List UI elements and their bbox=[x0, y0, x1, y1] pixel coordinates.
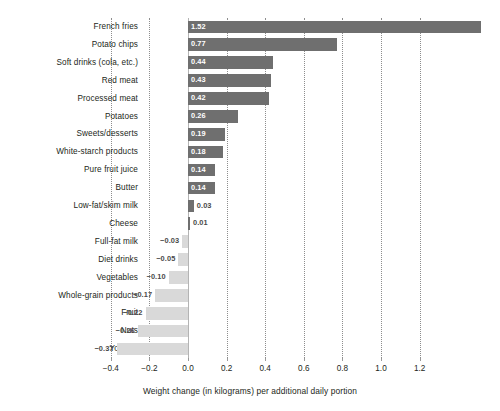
chart-row: Processed meat0.42 bbox=[0, 90, 500, 108]
bar-value-label: 0.01 bbox=[193, 217, 208, 230]
bar bbox=[188, 38, 337, 51]
bar-value-label: 0.77 bbox=[191, 38, 206, 51]
category-label: Whole-grain products bbox=[0, 287, 138, 305]
bar bbox=[188, 21, 481, 34]
category-label: French fries bbox=[0, 18, 138, 36]
x-tick-label: 1.0 bbox=[361, 364, 401, 373]
x-tick-label: −0.4 bbox=[91, 364, 131, 373]
x-tick-mark bbox=[265, 358, 266, 361]
chart-row: Nuts−0.26 bbox=[0, 322, 500, 340]
bar bbox=[146, 307, 188, 320]
x-tick-mark bbox=[188, 358, 189, 361]
chart-row: Low-fat/skim milk0.03 bbox=[0, 197, 500, 215]
category-label: Fruit bbox=[0, 304, 138, 322]
category-label: Cheese bbox=[0, 215, 138, 233]
chart-row: Whole-grain products−0.17 bbox=[0, 287, 500, 305]
category-label: Diet drinks bbox=[0, 251, 138, 269]
category-label: Low-fat/skim milk bbox=[0, 197, 138, 215]
chart-row: Red meat0.43 bbox=[0, 72, 500, 90]
chart-row: Pure fruit juice0.14 bbox=[0, 161, 500, 179]
bar-value-label: −0.10 bbox=[143, 271, 166, 284]
x-axis-title: Weight change (in kilograms) per additio… bbox=[0, 386, 500, 396]
category-label: Red meat bbox=[0, 72, 138, 90]
x-axis: −0.4−0.20.00.20.40.60.81.01.2 bbox=[0, 358, 500, 359]
chart-row: Vegetables−0.10 bbox=[0, 269, 500, 287]
bar-value-label: 0.42 bbox=[191, 92, 206, 105]
bar bbox=[169, 271, 188, 284]
chart-row: Sweets/desserts0.19 bbox=[0, 125, 500, 143]
category-label: Sweets/desserts bbox=[0, 125, 138, 143]
x-tick-label: 0.4 bbox=[245, 364, 285, 373]
category-label: Potatoes bbox=[0, 108, 138, 126]
x-tick-mark bbox=[227, 358, 228, 361]
chart-row: Diet drinks−0.05 bbox=[0, 251, 500, 269]
bar-value-label: 0.14 bbox=[191, 182, 206, 195]
chart-row: Yoghurt−0.37 bbox=[0, 340, 500, 358]
x-tick-mark bbox=[149, 358, 150, 361]
bar-value-label: 0.14 bbox=[191, 164, 206, 177]
chart-row: Potato chips0.77 bbox=[0, 36, 500, 54]
chart-row: Potatoes0.26 bbox=[0, 108, 500, 126]
bar bbox=[188, 200, 194, 213]
chart-row: French fries1.52 bbox=[0, 18, 500, 36]
bar-value-label: 0.26 bbox=[191, 110, 206, 123]
category-label: Soft drinks (cola, etc.) bbox=[0, 54, 138, 72]
bar-value-label: −0.22 bbox=[120, 307, 143, 320]
bar-value-label: −0.26 bbox=[112, 325, 135, 338]
category-label: Vegetables bbox=[0, 269, 138, 287]
x-tick-label: 0.6 bbox=[284, 364, 324, 373]
category-label: Processed meat bbox=[0, 90, 138, 108]
x-tick-mark bbox=[304, 358, 305, 361]
category-label: White-starch products bbox=[0, 143, 138, 161]
bar-value-label: 0.03 bbox=[197, 200, 212, 213]
bar bbox=[178, 253, 188, 266]
x-tick-label: 0.0 bbox=[168, 364, 208, 373]
bar bbox=[182, 235, 188, 248]
bar-value-label: −0.37 bbox=[91, 343, 114, 356]
category-label: Butter bbox=[0, 179, 138, 197]
x-tick-label: 1.2 bbox=[400, 364, 440, 373]
chart-row: White-starch products0.18 bbox=[0, 143, 500, 161]
chart-row: Full-fat milk−0.03 bbox=[0, 233, 500, 251]
category-label: Pure fruit juice bbox=[0, 161, 138, 179]
chart-row: Fruit−0.22 bbox=[0, 304, 500, 322]
plot-area: French fries1.52Potato chips0.77Soft dri… bbox=[0, 18, 500, 358]
x-tick-mark bbox=[381, 358, 382, 361]
bar-value-label: 0.18 bbox=[191, 146, 206, 159]
bar bbox=[188, 217, 190, 230]
bar-value-label: −0.17 bbox=[129, 289, 152, 302]
bar bbox=[117, 343, 188, 356]
category-label: Full-fat milk bbox=[0, 233, 138, 251]
x-tick-mark bbox=[342, 358, 343, 361]
chart-row: Butter0.14 bbox=[0, 179, 500, 197]
x-tick-mark bbox=[420, 358, 421, 361]
chart-row: Soft drinks (cola, etc.)0.44 bbox=[0, 54, 500, 72]
x-tick-label: 0.2 bbox=[207, 364, 247, 373]
bar-value-label: 1.52 bbox=[191, 21, 206, 34]
bar-value-label: 0.44 bbox=[191, 56, 206, 69]
bar-value-label: 0.43 bbox=[191, 74, 206, 87]
bar bbox=[138, 325, 188, 338]
category-label: Potato chips bbox=[0, 36, 138, 54]
x-tick-label: −0.2 bbox=[129, 364, 169, 373]
x-tick-mark bbox=[111, 358, 112, 361]
bar-value-label: −0.03 bbox=[156, 235, 179, 248]
chart-row: Cheese0.01 bbox=[0, 215, 500, 233]
x-tick-label: 0.8 bbox=[322, 364, 362, 373]
bar-value-label: 0.19 bbox=[191, 128, 206, 141]
bar bbox=[155, 289, 188, 302]
bar-value-label: −0.05 bbox=[152, 253, 175, 266]
bar-chart: French fries1.52Potato chips0.77Soft dri… bbox=[0, 0, 500, 411]
